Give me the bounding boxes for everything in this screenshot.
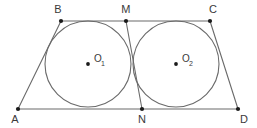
segment-MN <box>126 21 142 109</box>
vertex-label-N: N <box>138 113 146 125</box>
vertex-dot-N <box>140 107 144 111</box>
vertex-dot-M <box>124 19 128 23</box>
vertex-label-D: D <box>240 113 248 125</box>
center-dot-O1 <box>86 62 90 66</box>
vertex-dot-D <box>236 107 240 111</box>
vertex-label-A: A <box>11 113 19 125</box>
center-subscript-O1: 1 <box>101 60 105 67</box>
figure-canvas: O 1 O 2 A B M C D N <box>0 0 257 128</box>
center-label-group: O 1 O 2 <box>94 53 193 67</box>
vertex-dot-C <box>208 19 212 23</box>
vertex-dot-A <box>16 107 20 111</box>
segment-CD <box>210 21 238 109</box>
vertex-label-B: B <box>54 3 62 15</box>
center-subscript-O2: 2 <box>189 60 193 67</box>
vertex-label-C: C <box>209 3 217 15</box>
vertex-dot-B <box>59 19 63 23</box>
center-dot-O2 <box>174 62 178 66</box>
geometry-figure: O 1 O 2 A B M C D N <box>0 0 257 128</box>
vertex-label-M: M <box>121 3 130 15</box>
segment-AB <box>18 21 61 109</box>
